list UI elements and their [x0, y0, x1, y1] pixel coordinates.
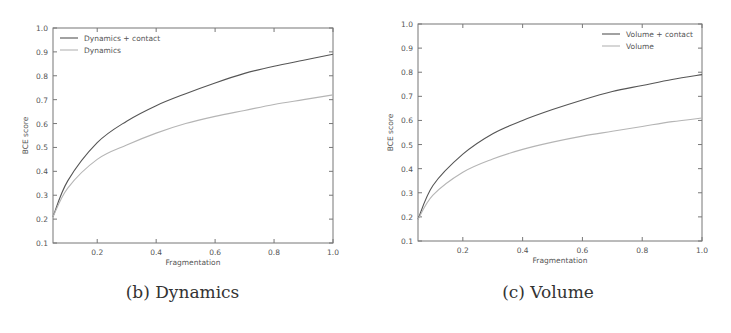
y-tick-label: 0.3 — [36, 191, 48, 200]
x-tick-label: 0.8 — [636, 246, 648, 255]
y-tick-label: 1.0 — [401, 20, 413, 29]
dynamics-chart-panel: 0.10.20.30.40.50.60.70.80.91.00.20.40.60… — [0, 0, 365, 333]
y-tick-label: 0.6 — [401, 116, 413, 125]
y-tick-label: 0.1 — [401, 237, 413, 246]
y-tick-label: 0.2 — [401, 213, 413, 222]
plot-frame — [53, 28, 333, 243]
x-tick-label: 0.6 — [576, 246, 588, 255]
plot-frame — [418, 24, 702, 241]
volume-caption: (c) Volume — [365, 282, 731, 302]
x-tick-label: 0.6 — [209, 248, 221, 257]
y-tick-label: 0.1 — [36, 239, 48, 248]
series-line-volume — [418, 118, 702, 219]
dynamics-line-chart: 0.10.20.30.40.50.60.70.80.91.00.20.40.60… — [0, 0, 365, 270]
y-tick-label: 0.4 — [36, 167, 48, 176]
volume-line-chart: 0.10.20.30.40.50.60.70.80.91.00.20.40.60… — [365, 0, 731, 270]
y-tick-label: 0.8 — [36, 72, 48, 81]
x-tick-label: 0.4 — [517, 246, 529, 255]
y-tick-label: 0.5 — [401, 141, 413, 150]
series-line-dynamics — [53, 95, 333, 217]
y-tick-label: 0.6 — [36, 120, 48, 129]
x-tick-label: 1.0 — [696, 246, 708, 255]
legend-label: Dynamics — [84, 46, 121, 55]
legend-label: Dynamics + contact — [84, 34, 160, 43]
x-axis-label: Fragmentation — [166, 258, 221, 267]
x-tick-label: 0.2 — [91, 248, 103, 257]
y-tick-label: 0.9 — [401, 44, 413, 53]
x-tick-label: 0.8 — [268, 248, 280, 257]
y-tick-label: 0.8 — [401, 68, 413, 77]
legend-label: Volume — [626, 42, 654, 51]
volume-chart-panel: 0.10.20.30.40.50.60.70.80.91.00.20.40.60… — [365, 0, 731, 333]
x-axis-label: Fragmentation — [533, 256, 588, 265]
y-tick-label: 0.4 — [401, 165, 413, 174]
series-line-volume-contact — [418, 75, 702, 220]
x-tick-label: 0.4 — [150, 248, 162, 257]
y-tick-label: 1.0 — [36, 24, 48, 33]
legend-label: Volume + contact — [626, 30, 693, 39]
x-tick-label: 0.2 — [457, 246, 469, 255]
y-tick-label: 0.9 — [36, 48, 48, 57]
x-tick-label: 1.0 — [327, 248, 339, 257]
series-line-dynamics-contact — [53, 54, 333, 216]
y-tick-label: 0.7 — [36, 96, 48, 105]
y-tick-label: 0.5 — [36, 143, 48, 152]
dynamics-caption: (b) Dynamics — [0, 282, 365, 302]
y-axis-label: BCE score — [21, 116, 30, 154]
y-axis-label: BCE score — [386, 113, 395, 151]
y-tick-label: 0.2 — [36, 215, 48, 224]
y-tick-label: 0.7 — [401, 92, 413, 101]
y-tick-label: 0.3 — [401, 189, 413, 198]
